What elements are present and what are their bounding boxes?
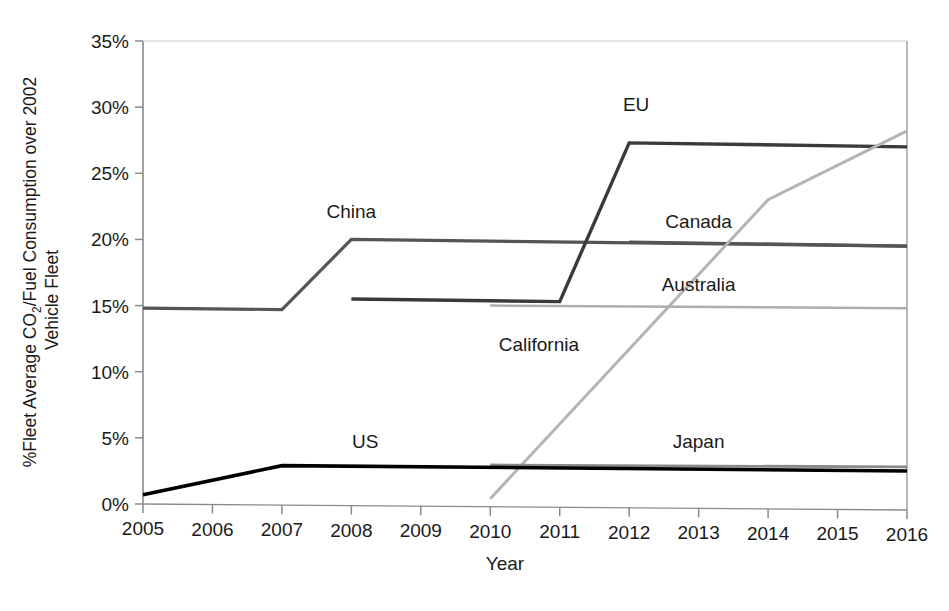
y-axis-tick-label: 15%: [91, 296, 129, 317]
x-axis-tick-label: 2012: [608, 522, 650, 543]
x-axis-tick-label: 2009: [400, 520, 442, 541]
series-label-california: California: [499, 334, 580, 355]
x-axis-tick-label: 2007: [261, 519, 303, 540]
x-axis-tick-label: 2014: [747, 523, 790, 544]
series-label-canada: Canada: [665, 211, 732, 232]
x-axis-tick-label: 2010: [469, 521, 511, 542]
x-axis-tick-label: 2006: [191, 519, 233, 540]
y-axis-tick-label: 0%: [102, 494, 130, 515]
x-axis-tick-label: 2005: [122, 518, 164, 539]
series-label-us: US: [352, 431, 378, 452]
series-label-china: China: [327, 201, 377, 222]
series-label-layer: ChinaEUCanadaCaliforniaAustraliaJapanUS: [327, 94, 736, 452]
y-axis-title-line2: Vehicle Fleet: [42, 250, 62, 350]
series-line-canada: [629, 242, 907, 246]
series-label-australia: Australia: [662, 274, 736, 295]
series-line-china: [143, 239, 907, 309]
x-axis-tick-label: 2016: [886, 524, 928, 545]
x-axis-tick-label: 2013: [677, 522, 719, 543]
y-axis-title-line1: %Fleet Average CO2/Fuel Consumption over…: [20, 77, 44, 468]
y-axis-tick-label: 30%: [91, 97, 129, 118]
line-chart: ChinaEUCanadaCaliforniaAustraliaJapanUS …: [0, 0, 949, 611]
x-axis-title: Year: [486, 553, 525, 574]
x-axis-tick-label: 2015: [816, 523, 858, 544]
series-label-eu: EU: [623, 94, 649, 115]
series-layer: [143, 131, 907, 499]
y-axis-tick-label: 20%: [91, 229, 129, 250]
y-axis-tick-label: 10%: [91, 362, 129, 383]
x-axis-tick-label: 2011: [539, 521, 580, 542]
axis-layer: [135, 41, 907, 519]
series-line-australia: [490, 306, 907, 309]
series-line-eu: [351, 143, 907, 302]
series-line-us: [143, 466, 907, 495]
y-axis-tick-label: 5%: [102, 428, 130, 449]
series-label-japan: Japan: [673, 431, 725, 452]
x-axis-line: [143, 504, 907, 510]
chart-figure: ChinaEUCanadaCaliforniaAustraliaJapanUS …: [0, 0, 949, 611]
x-axis-tick-label: 2008: [330, 520, 372, 541]
y-axis-tick-label: 35%: [91, 31, 129, 52]
y-axis-title: %Fleet Average CO2/Fuel Consumption over…: [20, 77, 62, 468]
y-axis-tick-label: 25%: [91, 163, 129, 184]
